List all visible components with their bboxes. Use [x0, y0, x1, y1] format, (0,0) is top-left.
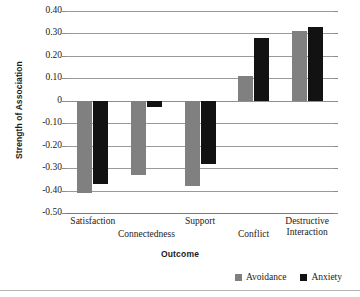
y-tick-label: 0.30 — [18, 29, 62, 39]
x-tick-label: DestructiveInteraction — [285, 216, 329, 238]
legend-entry-avoidance: Avoidance — [235, 272, 286, 282]
bar-avoidance-destructive-interaction — [292, 31, 307, 101]
legend-swatch-anxiety-icon — [300, 274, 307, 281]
x-tick-label: Satisfaction — [70, 216, 115, 227]
gridline — [66, 213, 334, 214]
x-tick-label: Conflict — [238, 229, 269, 240]
legend-entry-anxiety: Anxiety — [300, 272, 342, 282]
bar-avoidance-satisfaction — [77, 101, 92, 193]
y-tick-mark-right — [334, 168, 338, 169]
y-tick-mark-right — [334, 11, 338, 12]
bar-anxiety-support — [201, 101, 216, 164]
bar-series-layer — [66, 11, 334, 213]
y-tick-mark-right — [334, 191, 338, 192]
bar-avoidance-connectedness — [131, 101, 146, 175]
y-tick-mark-right — [334, 123, 338, 124]
x-axis-tick-labels: SatisfactionConnectednessSupportConflict… — [0, 216, 360, 250]
y-tick-mark-right — [334, 56, 338, 57]
y-tick-mark-right — [334, 146, 338, 147]
y-tick-mark — [62, 213, 66, 214]
bar-anxiety-destructive-interaction — [308, 27, 323, 101]
y-tick-mark-right — [334, 33, 338, 34]
y-tick-label: -0.10 — [18, 118, 62, 128]
y-tick-label: -0.20 — [18, 141, 62, 151]
y-tick-label: 0 — [18, 96, 62, 106]
x-tick-label-line: Interaction — [285, 227, 329, 238]
x-tick-label: Support — [185, 216, 215, 227]
bar-chart: Strength of Association 0.400.300.200.10… — [0, 0, 360, 297]
y-tick-mark-right — [334, 78, 338, 79]
y-tick-mark-right — [334, 213, 338, 214]
y-tick-label: 0.10 — [18, 74, 62, 84]
y-tick-label: 0.20 — [18, 51, 62, 61]
bottom-divider — [0, 290, 360, 291]
plot-area — [66, 11, 334, 213]
chart-legend: AvoidanceAnxiety — [235, 272, 342, 282]
legend-label: Avoidance — [246, 272, 286, 282]
bar-avoidance-support — [185, 101, 200, 186]
y-tick-label: -0.40 — [18, 186, 62, 196]
x-axis-title: Outcome — [0, 249, 360, 259]
legend-label: Anxiety — [311, 272, 342, 282]
y-tick-mark-right — [334, 101, 338, 102]
x-tick-label: Connectedness — [118, 229, 175, 240]
y-tick-label: -0.30 — [18, 163, 62, 173]
bar-anxiety-satisfaction — [93, 101, 108, 184]
x-tick-label-line: Destructive — [285, 216, 329, 227]
y-axis-tick-labels: 0.400.300.200.100-0.10-0.20-0.30-0.40-0.… — [18, 0, 62, 225]
y-tick-label: 0.40 — [18, 6, 62, 16]
bar-anxiety-conflict — [254, 38, 269, 101]
bar-anxiety-connectedness — [147, 101, 162, 108]
legend-swatch-avoidance-icon — [235, 274, 242, 281]
bar-avoidance-conflict — [238, 76, 253, 101]
